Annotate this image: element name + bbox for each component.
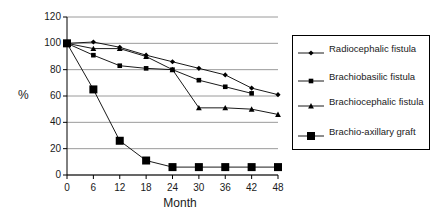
data-point-marker: [197, 78, 202, 83]
x-tick-label: 18: [134, 182, 158, 193]
series-3: [63, 39, 282, 171]
x-tick-label: 24: [161, 182, 185, 193]
legend-item: Brachiocephalic fistula: [293, 99, 431, 123]
data-point-marker: [309, 79, 314, 84]
chart-figure: % Month 020406080100120 0612182430364248…: [0, 0, 438, 222]
data-point-marker: [63, 39, 71, 47]
series-2: [64, 40, 281, 116]
y-tick-label: 40: [25, 116, 61, 127]
data-point-marker: [170, 59, 175, 64]
data-point-marker: [221, 163, 229, 171]
legend-label: Brachio-axillary graft: [329, 126, 429, 137]
data-point-marker: [274, 163, 282, 171]
y-tick-label: 60: [25, 90, 61, 101]
data-point-marker: [223, 84, 228, 89]
legend-marker-square-large-icon: [297, 129, 325, 143]
legend-item: Brachiobasilic fistula: [293, 74, 431, 98]
chart-legend: Radiocephalic fistulaBrachiobasilic fist…: [292, 35, 430, 150]
data-point-marker: [223, 72, 228, 77]
x-tick-label: 12: [108, 182, 132, 193]
data-point-marker: [195, 163, 203, 171]
y-tick-label: 100: [25, 37, 61, 48]
data-point-marker: [169, 163, 177, 171]
data-point-marker: [196, 66, 201, 71]
legend-item: Radiocephalic fistula: [293, 46, 431, 70]
data-point-marker: [89, 85, 97, 93]
data-point-marker: [144, 66, 149, 71]
data-point-marker: [275, 92, 280, 97]
data-point-marker: [307, 132, 315, 140]
data-point-marker: [249, 91, 254, 96]
data-point-marker: [142, 157, 150, 165]
y-tick-label: 120: [25, 11, 61, 22]
data-point-marker: [116, 137, 124, 145]
legend-marker-diamond-icon: [297, 46, 325, 60]
legend-label: Brachiobasilic fistula: [329, 71, 429, 82]
legend-label: Brachiocephalic fistula: [329, 96, 429, 107]
data-point-marker: [249, 86, 254, 91]
data-point-marker: [117, 63, 122, 68]
data-point-marker: [91, 53, 96, 58]
data-point-marker: [248, 163, 256, 171]
legend-label: Radiocephalic fistula: [329, 43, 429, 54]
legend-marker-triangle-icon: [297, 99, 325, 113]
y-tick-label: 80: [25, 64, 61, 75]
x-axis-title: Month: [110, 196, 250, 210]
y-tick-label: 20: [25, 143, 61, 154]
legend-item: Brachio-axillary graft: [293, 129, 431, 153]
x-tick-label: 30: [187, 182, 211, 193]
data-point-marker: [91, 39, 96, 44]
x-tick-label: 36: [213, 182, 237, 193]
y-tick-label: 0: [25, 169, 61, 180]
x-tick-label: 0: [55, 182, 79, 193]
series-line: [67, 43, 278, 114]
x-tick-label: 48: [266, 182, 290, 193]
x-tick-label: 6: [81, 182, 105, 193]
data-point-marker: [308, 50, 313, 55]
legend-marker-square-small-icon: [297, 74, 325, 88]
x-tick-label: 42: [240, 182, 264, 193]
